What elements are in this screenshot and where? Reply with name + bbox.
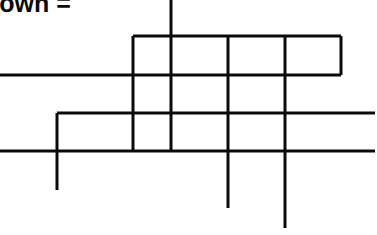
line-grid-diagram — [0, 0, 377, 235]
